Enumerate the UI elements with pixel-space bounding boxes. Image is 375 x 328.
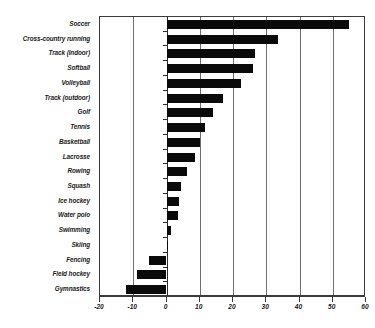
bar (167, 123, 205, 132)
bar (149, 256, 167, 265)
category-label: Volleyball (0, 79, 94, 86)
category-tick (163, 134, 167, 135)
category-label: Tennis (0, 123, 94, 130)
x-axis-tick (99, 297, 100, 302)
bar (167, 108, 214, 117)
bar (167, 241, 168, 250)
gridline-10 (200, 17, 201, 295)
category-tick (163, 45, 167, 46)
category-label: Water polo (0, 211, 94, 218)
x-axis-tick (232, 297, 233, 302)
category-tick (163, 163, 167, 164)
bar (167, 35, 278, 44)
category-tick (163, 119, 167, 120)
bar (167, 138, 200, 147)
x-axis-tick-label: -20 (84, 303, 114, 310)
category-label: Track (outdoor) (0, 94, 94, 101)
x-axis-tick (199, 297, 200, 302)
category-label: Golf (0, 108, 94, 115)
x-axis-tick-label: -10 (117, 303, 147, 310)
category-axis-labels: SoccerCross-country runningTrack (indoor… (0, 16, 94, 296)
bar (167, 94, 224, 103)
category-tick (163, 252, 167, 253)
category-tick (163, 222, 167, 223)
category-label: Lacrosse (0, 153, 94, 160)
category-label: Basketball (0, 138, 94, 145)
x-axis-tick-label: 0 (151, 303, 181, 310)
bar (167, 167, 188, 176)
category-tick (163, 193, 167, 194)
x-axis-tick (265, 297, 266, 302)
x-axis-tick (132, 297, 133, 302)
gridline-30 (266, 17, 267, 295)
category-tick (163, 60, 167, 61)
bar (167, 211, 178, 220)
category-tick (163, 75, 167, 76)
category-tick (163, 208, 167, 209)
category-tick (163, 104, 167, 105)
bar (167, 226, 172, 235)
category-label: Field hockey (0, 270, 94, 277)
category-label: Cross-country running (0, 35, 94, 42)
bar (126, 285, 167, 294)
x-axis-tick (166, 297, 167, 302)
category-tick (163, 281, 167, 282)
category-tick (163, 237, 167, 238)
bar (167, 153, 195, 162)
gridline--10 (133, 17, 134, 295)
bar (167, 64, 253, 73)
gridline-50 (333, 17, 334, 295)
category-label: Track (indoor) (0, 49, 94, 56)
bar (167, 182, 182, 191)
category-label: Softball (0, 64, 94, 71)
x-axis-tick (332, 297, 333, 302)
bar (137, 270, 167, 279)
category-label: Ice hockey (0, 197, 94, 204)
category-label: Soccer (0, 20, 94, 27)
x-axis-tick-label: 40 (284, 303, 314, 310)
gridline-40 (300, 17, 301, 295)
x-axis-tick-label: 30 (250, 303, 280, 310)
category-tick (163, 178, 167, 179)
bar (167, 79, 242, 88)
bar (167, 49, 255, 58)
gridline-20 (233, 17, 234, 295)
x-axis-tick-label: 20 (217, 303, 247, 310)
category-tick (163, 31, 167, 32)
category-tick (163, 267, 167, 268)
category-label: Squash (0, 182, 94, 189)
bar-chart: SoccerCross-country runningTrack (indoor… (0, 0, 375, 328)
category-tick (163, 90, 167, 91)
category-label: Gymnastics (0, 285, 94, 292)
bar (167, 20, 350, 29)
category-label: Fencing (0, 256, 94, 263)
bar (167, 197, 179, 206)
x-axis-tick-label: 50 (317, 303, 347, 310)
category-tick (163, 149, 167, 150)
x-axis-tick (365, 297, 366, 302)
x-axis-tick-label: 60 (350, 303, 375, 310)
x-axis-tick (299, 297, 300, 302)
plot-area (99, 16, 365, 296)
category-label: Skiing (0, 241, 94, 248)
x-axis-tick-label: 10 (184, 303, 214, 310)
category-label: Rowing (0, 167, 94, 174)
category-label: Swimming (0, 226, 94, 233)
